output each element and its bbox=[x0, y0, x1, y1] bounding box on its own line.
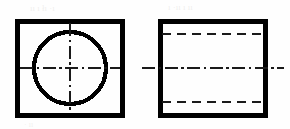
front-view bbox=[17, 21, 122, 115]
engineering-drawing-canvas: ıı ı łı ·ı ı ·ıı ı ıı · ıı bbox=[0, 0, 290, 129]
drawing-surface bbox=[0, 0, 290, 129]
side-view bbox=[142, 21, 284, 115]
